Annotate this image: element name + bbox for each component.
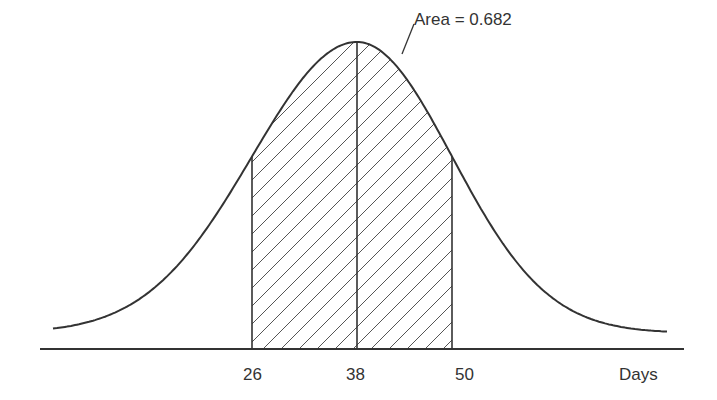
- shaded-region: [250, 0, 455, 350]
- tick-label-38: 38: [346, 365, 365, 385]
- area-annotation: Area = 0.682: [414, 10, 512, 30]
- annotation-leader-line: [402, 24, 414, 54]
- tick-label-26: 26: [243, 365, 262, 385]
- x-axis-label: Days: [619, 365, 658, 385]
- tick-label-50: 50: [455, 365, 474, 385]
- normal-curve-chart: [0, 0, 717, 400]
